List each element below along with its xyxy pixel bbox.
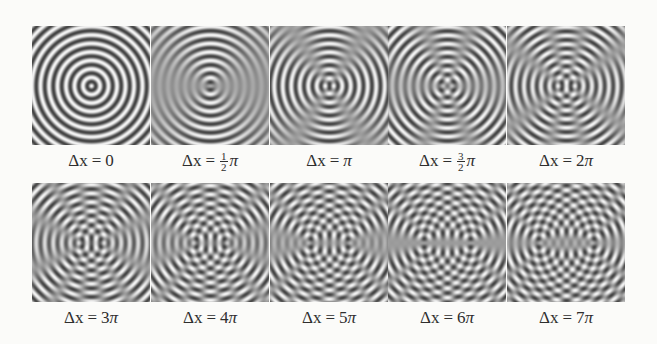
interference-pattern-image: [151, 183, 269, 302]
panel-caption: Δx=2π: [507, 152, 625, 170]
interference-pattern-image: [270, 183, 388, 302]
panel-caption: Δx=4π: [151, 309, 269, 327]
interference-pattern-image: [507, 26, 625, 145]
interference-panel-pi: [270, 26, 388, 145]
interference-pattern-image: [388, 26, 506, 145]
interference-panel-5pi: [270, 183, 388, 302]
interference-panel-7pi: [507, 183, 625, 302]
interference-pattern-image: [388, 183, 506, 302]
interference-panel-4pi: [151, 183, 269, 302]
panel-caption: Δx=6π: [388, 309, 506, 327]
pi-symbol: π: [466, 308, 475, 327]
delta-symbol: Δx: [68, 151, 87, 170]
panel-caption: Δx=32π: [388, 152, 506, 173]
panel-caption: Δx=5π: [270, 309, 388, 327]
interference-panel-half-pi: [151, 26, 269, 145]
fraction: 12: [220, 151, 228, 172]
interference-panel-6pi: [388, 183, 506, 302]
panel-caption: Δx=π: [270, 152, 388, 170]
pi-symbol: π: [230, 151, 239, 170]
interference-panel-0: [32, 26, 150, 145]
panel-caption: Δx=0: [32, 152, 150, 170]
interference-panel-three-halves-pi: [388, 26, 506, 145]
interference-panel-2pi: [507, 26, 625, 145]
panel-caption: Δx=12π: [151, 152, 269, 173]
pi-symbol: π: [110, 308, 119, 327]
pi-symbol: π: [585, 151, 594, 170]
interference-figure: Δx=0 Δx=12π Δx=π Δx=32π Δx=2π Δx=3π Δx=4…: [0, 0, 657, 344]
pi-symbol: π: [348, 308, 357, 327]
interference-pattern-image: [507, 183, 625, 302]
pi-symbol: π: [229, 308, 238, 327]
interference-pattern-image: [32, 26, 150, 145]
panel-caption: Δx=3π: [32, 309, 150, 327]
panel-caption: Δx=7π: [507, 309, 625, 327]
interference-pattern-image: [270, 26, 388, 145]
fraction: 32: [457, 151, 465, 172]
interference-pattern-image: [32, 183, 150, 302]
interference-panel-3pi: [32, 183, 150, 302]
interference-pattern-image: [151, 26, 269, 145]
pi-symbol: π: [343, 151, 352, 170]
pi-symbol: π: [585, 308, 594, 327]
pi-symbol: π: [467, 151, 476, 170]
